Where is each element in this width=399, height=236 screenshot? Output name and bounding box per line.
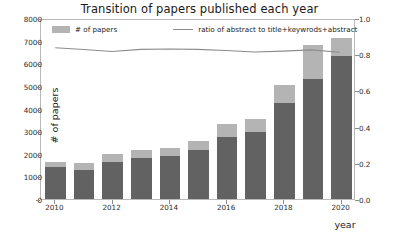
y-tick-label-right-0.4: 0.4 — [359, 123, 385, 132]
y-tick-mark-left — [36, 42, 40, 43]
x-tick-label-2018: 2018 — [274, 203, 292, 212]
y-tick-mark-right — [355, 164, 359, 165]
chart-figure: Transition of papers published each year… — [0, 0, 399, 236]
legend-label-ratio: ratio of abstract to title+keywrods+abst… — [198, 25, 357, 34]
y-tick-mark-left — [36, 177, 40, 178]
x-tick-label-2012: 2012 — [102, 203, 120, 212]
x-tick-mark — [54, 200, 55, 204]
x-tick-mark — [112, 200, 113, 204]
x-tick-mark — [169, 200, 170, 204]
x-tick-label-2014: 2014 — [160, 203, 178, 212]
y-tick-label-right-0.0: 0.0 — [359, 196, 385, 205]
y-tick-mark-right — [355, 19, 359, 20]
y-tick-mark-right — [355, 200, 359, 201]
y-tick-mark-left — [36, 200, 40, 201]
x-tick-label-2016: 2016 — [217, 203, 235, 212]
legend-line-icon — [173, 29, 193, 30]
y-tick-mark-left — [36, 19, 40, 20]
x-axis-label: year — [300, 219, 390, 230]
y-tick-mark-right — [355, 91, 359, 92]
legend-item-ratio: ratio of abstract to title+keywrods+abst… — [173, 25, 357, 34]
legend-item-papers: # of papers — [52, 25, 117, 34]
x-tick-label-2020: 2020 — [332, 203, 350, 212]
x-tick-mark — [283, 200, 284, 204]
chart-title: Transition of papers published each year — [0, 2, 399, 16]
y-tick-label-right-0.6: 0.6 — [359, 87, 385, 96]
legend-label-papers: # of papers — [75, 25, 117, 34]
y-tick-mark-left — [36, 87, 40, 88]
y-tick-mark-left — [36, 132, 40, 133]
y-tick-mark-left — [36, 110, 40, 111]
x-tick-mark — [341, 200, 342, 204]
chart-legend: # of papers ratio of abstract to title+k… — [42, 21, 353, 38]
ratio-line-path — [55, 48, 340, 52]
x-tick-mark — [226, 200, 227, 204]
legend-swatch-bar-icon — [52, 26, 70, 33]
y-tick-label-right-1.0: 1.0 — [359, 15, 385, 24]
plot-area — [40, 19, 355, 200]
y-tick-mark-right — [355, 128, 359, 129]
y-tick-mark-left — [36, 64, 40, 65]
y-axis-left-label: # of papers — [49, 56, 60, 176]
y-tick-label-right-0.2: 0.2 — [359, 159, 385, 168]
y-tick-mark-right — [355, 55, 359, 56]
ratio-line-series — [41, 20, 354, 199]
x-tick-label-2010: 2010 — [45, 203, 63, 212]
y-tick-mark-left — [36, 155, 40, 156]
y-tick-label-right-0.8: 0.8 — [359, 51, 385, 60]
